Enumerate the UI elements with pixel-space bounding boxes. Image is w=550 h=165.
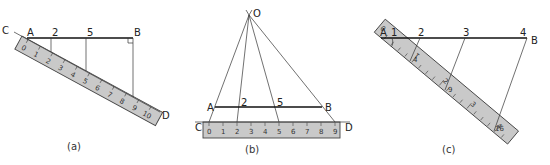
point-label-a: A <box>27 27 34 38</box>
point-label-c: C <box>2 25 9 36</box>
point-label-b: B <box>325 102 332 113</box>
point-label-o: O <box>253 8 261 19</box>
division-label: 2 <box>418 27 424 38</box>
point-label-c: C <box>195 122 202 133</box>
scale-ruler-a: 0 1 2 3 4 5 6 7 8 9 10 <box>15 36 163 126</box>
ruler-mark-label: 16 <box>495 125 504 133</box>
division-label: 4 <box>520 27 526 38</box>
ruler-num: 1 <box>221 128 225 136</box>
ray-o-9 <box>249 15 335 122</box>
ruler-num: 0 <box>207 128 211 136</box>
panel-a: 0 1 2 3 4 5 6 7 8 9 10 C A 2 5 B D (a) <box>2 25 170 152</box>
division-label: 1 <box>391 27 397 38</box>
ruler-mark-label: 9 <box>448 86 452 94</box>
point-label-a: A <box>380 27 387 38</box>
ruler-num: 4 <box>263 128 268 136</box>
ruler-num: 6 <box>291 128 296 136</box>
panel-c: 0 1 2 3 4 A 1 2 3 4 B 4 9 16 (c) <box>374 19 538 155</box>
point-label-b: B <box>531 35 538 46</box>
ruler-num: 5 <box>277 128 281 136</box>
point-label-d: D <box>345 122 353 133</box>
ruler-num: 9 <box>333 128 337 136</box>
ruler-num: 2 <box>235 128 239 136</box>
ruler-num: 8 <box>319 128 323 136</box>
division-label: 3 <box>463 27 469 38</box>
point-label-b: B <box>134 27 141 38</box>
point-label-d: D <box>162 110 170 121</box>
line-cd <box>14 32 160 112</box>
point-label-a: A <box>207 102 214 113</box>
division-label: 5 <box>87 27 93 38</box>
projection-line-4 <box>494 38 527 131</box>
point-o-marker <box>246 10 252 15</box>
ruler-num: 3 <box>249 128 253 136</box>
division-label: 5 <box>277 97 283 108</box>
ruler-num: 7 <box>305 128 309 136</box>
division-label: 2 <box>52 27 58 38</box>
ruler-mark-label: 4 <box>413 56 418 64</box>
division-label: 2 <box>241 97 247 108</box>
caption-a: (a) <box>67 141 81 152</box>
caption-c: (c) <box>442 144 455 155</box>
caption-b: (b) <box>245 144 259 155</box>
line-division-diagram: 0 1 2 3 4 5 6 7 8 9 10 C A 2 5 B D (a) <box>0 0 550 165</box>
ray-o-5 <box>249 15 279 122</box>
panel-b: 0 1 2 3 4 5 6 7 8 9 O A 2 5 B C D (b) <box>195 8 353 155</box>
